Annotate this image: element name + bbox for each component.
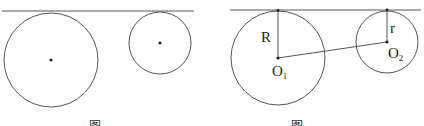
left-figure-caption: 图 <box>89 116 101 126</box>
tangent-point-1 <box>277 9 280 12</box>
label-O1: O1 <box>272 63 287 81</box>
label-r: r <box>390 20 395 36</box>
small-center-dot <box>158 41 161 44</box>
center-O2-dot <box>385 40 388 43</box>
label-O2: O2 <box>388 45 403 63</box>
left-figure <box>2 11 194 107</box>
label-R: R <box>261 29 271 45</box>
right-figure-caption: 图 <box>291 116 303 126</box>
tangent-point-2 <box>386 9 389 12</box>
large-center-dot <box>49 58 52 61</box>
diagram-canvas: R r O1 O2 <box>0 0 424 126</box>
center-O1-dot <box>276 56 279 59</box>
center-line-O1-O2 <box>278 42 387 58</box>
